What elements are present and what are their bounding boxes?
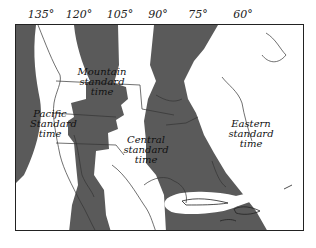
zone-label-central: Central standard time	[120, 135, 172, 165]
longitude-label-105: 105°	[107, 8, 134, 21]
longitude-label-135: 135°	[28, 8, 55, 21]
zone-label-mountain: Mountain standard time	[76, 67, 128, 97]
longitude-label-75: 75°	[188, 8, 208, 21]
zone-label-pacific: Pacific Standard time	[30, 109, 70, 139]
map-frame: Pacific Standard time Mountain standard …	[15, 24, 304, 231]
longitude-label-120: 120°	[66, 8, 93, 21]
longitude-label-90: 90°	[148, 8, 168, 21]
longitude-label-60: 60°	[233, 8, 253, 21]
mountain-zone-shade	[68, 25, 128, 231]
alaska-zone-shade	[16, 25, 41, 183]
zone-label-eastern: Eastern standard time	[226, 119, 276, 149]
